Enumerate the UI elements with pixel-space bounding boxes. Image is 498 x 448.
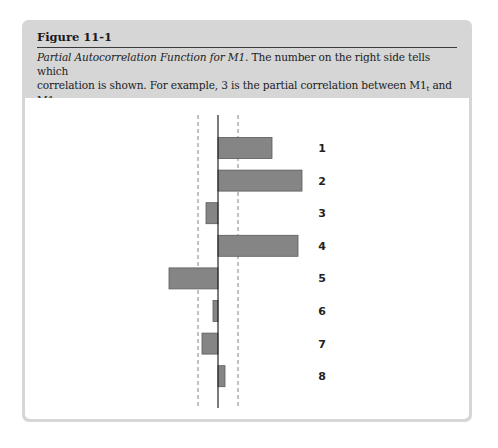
lag-label-8: 8 [318, 370, 326, 383]
lag-label-1: 1 [318, 142, 326, 155]
lag-label-3: 3 [318, 207, 326, 220]
bar-lag-2 [218, 170, 302, 191]
bar-lag-3 [206, 203, 218, 224]
bar-lag-7 [202, 333, 218, 354]
lag-label-6: 6 [318, 305, 326, 318]
lag-label-5: 5 [318, 272, 326, 285]
bar-lag-5 [169, 268, 218, 289]
bar-lag-8 [218, 366, 225, 387]
lag-label-4: 4 [318, 240, 326, 253]
bar-lag-6 [213, 301, 218, 322]
pacf-chart: 12345678 [0, 0, 498, 448]
lag-label-7: 7 [318, 338, 326, 351]
lag-label-2: 2 [318, 175, 326, 188]
bar-lag-1 [218, 138, 272, 159]
bar-group [169, 138, 302, 387]
lag-labels: 12345678 [318, 142, 326, 383]
bar-lag-4 [218, 235, 298, 256]
